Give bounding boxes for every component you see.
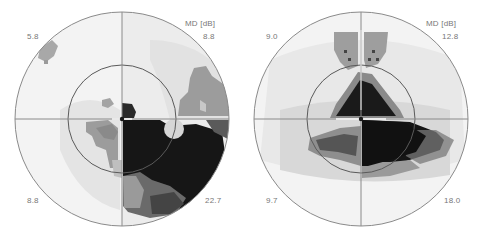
md-upper-left: 5.8	[27, 32, 39, 41]
md-unit-label: MD [dB]	[426, 19, 456, 28]
fixation-point	[359, 117, 363, 121]
md-upper-right: 12.8	[442, 32, 458, 41]
right-visual-field-plot: MD [dB] 9.0 12.8 9.7 18.0	[240, 0, 479, 233]
md-upper-right: 8.8	[203, 32, 215, 41]
md-upper-left: 9.0	[266, 32, 278, 41]
md-unit-label: MD [dB]	[185, 19, 215, 28]
md-lower-left: 9.7	[266, 196, 278, 205]
md-lower-left: 8.8	[27, 196, 39, 205]
left-visual-field-plot: MD [dB] 5.8 8.8 8.8 22.7	[0, 0, 240, 233]
md-lower-right: 18.0	[444, 196, 460, 205]
md-lower-right: 22.7	[205, 196, 221, 205]
fixation-point	[120, 117, 124, 121]
